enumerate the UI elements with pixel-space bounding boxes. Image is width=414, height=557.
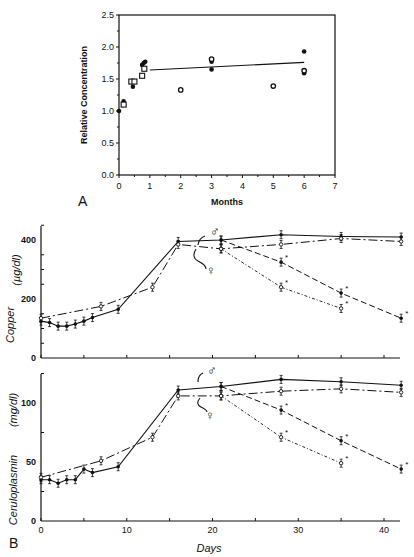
copper-ylabel: Copper (4, 306, 16, 343)
data-point-open (279, 436, 282, 439)
copper-unit: (µg/dl) (10, 254, 22, 286)
a-xtick-label: 1 (147, 181, 152, 191)
b-ytick-label: 200 (21, 294, 36, 304)
b-xtick-label: 10 (122, 525, 132, 535)
data-point-open (177, 243, 180, 246)
a-xtick-label: 6 (302, 181, 307, 191)
a-xtick-label: 4 (240, 181, 245, 191)
female-pointer-line (194, 249, 206, 269)
data-point-open (339, 237, 342, 240)
data-point-square (132, 79, 137, 84)
data-point-filled (82, 467, 86, 471)
fit-line (150, 62, 304, 70)
panel-b-copper-chart: 0200400 ***** Copper (µg/dl) ♂ ♀ (4, 224, 408, 363)
b-xtick-label: 20 (207, 525, 217, 535)
data-point-filled (116, 465, 120, 469)
series-line-male-treated (221, 386, 401, 469)
data-point-filled (91, 471, 95, 475)
data-point-filled (279, 378, 283, 382)
male-pointer-arrow-cp (198, 373, 203, 382)
data-point-filled (56, 481, 60, 485)
data-point-filled (399, 384, 403, 388)
male-symbol-copper: ♂ (210, 224, 220, 239)
cp-ylabel: Ceruloplasmin (7, 455, 19, 525)
a-xtick-label: 3 (209, 181, 214, 191)
b-ytick-label: 0 (31, 353, 36, 363)
copper-series: ***** (39, 231, 408, 330)
b-xlabel: Days (196, 542, 222, 554)
data-point-open (302, 68, 306, 72)
b-ytick-label: 0 (31, 516, 36, 526)
data-point-open (279, 390, 282, 393)
data-point-filled (219, 385, 223, 389)
female-symbol-copper: ♀ (206, 263, 216, 278)
significance-asterisk: * (345, 454, 348, 463)
series-line-male-treated (221, 240, 401, 318)
data-point-open (99, 459, 102, 462)
data-point-open (219, 247, 222, 250)
panel-a-frame (119, 15, 335, 175)
data-point-filled (279, 408, 283, 412)
data-point-open (39, 476, 42, 479)
a-xtick-label: 5 (271, 181, 276, 191)
data-point-open (279, 243, 282, 246)
data-point-filled (302, 49, 307, 54)
data-point-filled (143, 59, 148, 64)
data-point-filled (339, 380, 343, 384)
significance-asterisk: * (285, 253, 288, 262)
data-point-filled (339, 291, 343, 295)
a-ytick-label: 0.5 (101, 138, 114, 148)
data-point-square (142, 66, 147, 71)
a-ytick-label: 2.0 (101, 42, 114, 52)
data-point-filled (339, 439, 343, 443)
data-point-filled (399, 467, 403, 471)
data-point-filled (91, 316, 95, 320)
data-point-filled (399, 316, 403, 320)
data-point-filled (82, 319, 86, 323)
data-point-open (279, 286, 282, 289)
b-ytick-label: 100 (21, 398, 36, 408)
data-point-open (209, 57, 213, 61)
data-point-open (39, 316, 42, 319)
significance-asterisk: * (345, 284, 348, 293)
data-point-open (99, 305, 102, 308)
data-point-filled (219, 238, 223, 242)
panel-a-chart: 012345670.00.51.01.52.02.5 Relative Conc… (78, 10, 338, 209)
significance-asterisk: * (285, 428, 288, 437)
a-xtick-label: 2 (178, 181, 183, 191)
a-ytick-label: 1.0 (101, 106, 114, 116)
copper-ticks: 0200400 (21, 225, 384, 363)
a-xtick-label: 7 (332, 181, 337, 191)
panel-a-points (117, 49, 307, 113)
data-point-filled (117, 109, 122, 114)
cp-series: ***** (39, 375, 408, 487)
data-point-filled (279, 260, 283, 264)
b-ytick-label: 50 (26, 457, 36, 467)
panel-b-label: B (9, 535, 18, 551)
data-point-filled (74, 322, 78, 326)
data-point-filled (65, 324, 69, 328)
data-point-square (140, 73, 145, 78)
b-xtick-label: 30 (293, 525, 303, 535)
data-point-filled (279, 233, 283, 237)
data-point-open (219, 394, 222, 397)
cp-ticks: 010203040050100 (21, 374, 389, 536)
significance-asterisk: * (345, 432, 348, 441)
data-point-open (399, 391, 402, 394)
data-point-open (339, 387, 342, 390)
data-point-filled (48, 478, 52, 482)
b-xtick-label: 0 (38, 525, 43, 535)
significance-asterisk: * (345, 299, 348, 308)
figure: 012345670.00.51.01.52.02.5 Relative Conc… (0, 0, 414, 557)
panel-a-xlabel: Months (211, 197, 243, 207)
b-xtick-label: 40 (379, 525, 389, 535)
data-point-filled (65, 478, 69, 482)
significance-asterisk: * (285, 278, 288, 287)
male-symbol-cp: ♂ (207, 363, 217, 378)
data-point-open (151, 436, 154, 439)
data-point-open (339, 307, 342, 310)
data-point-filled (131, 84, 136, 89)
female-pointer-line-cp (198, 398, 207, 412)
a-ytick-label: 2.5 (101, 10, 114, 20)
panel-b-ceruloplasmin-chart: 010203040050100 ***** Ceruloplasmin (mg/… (7, 363, 408, 554)
